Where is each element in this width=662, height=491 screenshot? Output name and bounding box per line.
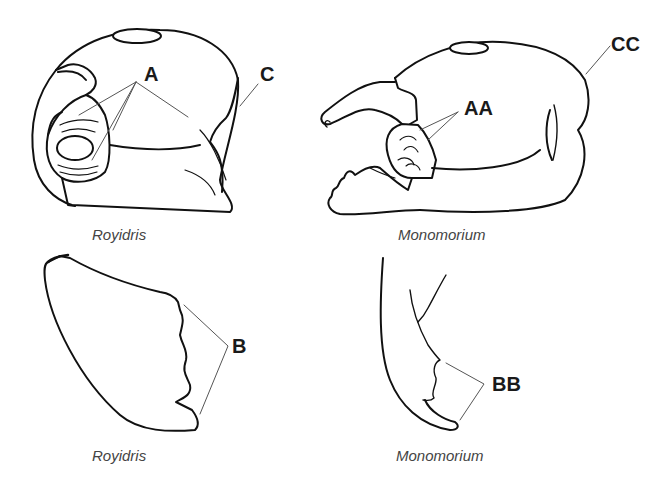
royidris-mandible-leaders: [184, 305, 228, 414]
caption-monomorium-head: Monomorium: [398, 227, 486, 242]
label-b: B: [232, 336, 246, 356]
caption-monomorium-mandible: Monomorium: [396, 448, 484, 463]
label-a: A: [144, 64, 158, 84]
caption-royidris-mandible: Royidris: [92, 448, 146, 463]
label-aa: AA: [464, 98, 493, 118]
label-cc: CC: [611, 34, 640, 54]
label-bb: BB: [492, 374, 521, 394]
comparative-morphology-figure: A C AA CC B BB Royidris Monomorium Royid…: [0, 0, 662, 491]
monomorium-mandible-leaders: [446, 363, 484, 420]
monomorium-head-drawing: [321, 42, 588, 215]
line-drawings: [0, 0, 662, 491]
label-c: C: [260, 64, 274, 84]
monomorium-mandible-drawing: [381, 258, 458, 430]
royidris-mandible-drawing: [44, 255, 197, 431]
royidris-head-drawing: [32, 29, 238, 212]
caption-royidris-head: Royidris: [92, 227, 146, 242]
